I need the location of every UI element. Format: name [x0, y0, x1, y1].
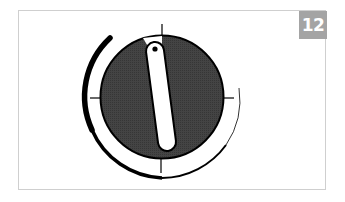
pointer-indicator-dot: [152, 46, 157, 51]
control-knob-diagram: [0, 0, 345, 202]
